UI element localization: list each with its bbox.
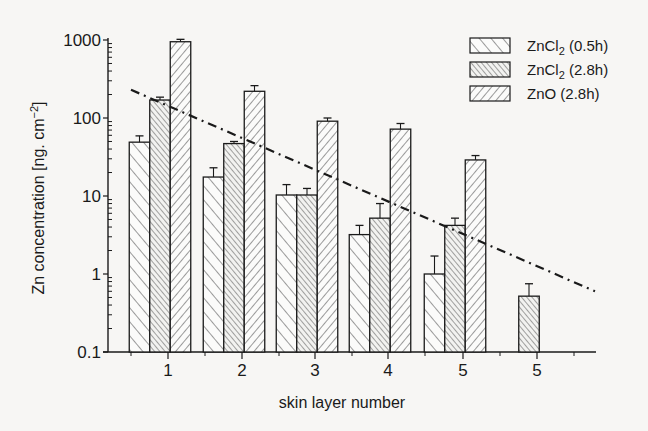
bar xyxy=(370,218,391,352)
y-axis-label: Zn concentration [ng. cm−2] xyxy=(28,101,47,294)
bar xyxy=(224,144,245,352)
bar xyxy=(445,225,466,352)
bar xyxy=(390,129,411,352)
y-tick-label: 0.1 xyxy=(77,343,101,362)
chart: 0.11101001000123455 ZnCl2 (0.5h)ZnCl2 (2… xyxy=(0,0,648,431)
legend-label: ZnCl2 (2.8h) xyxy=(527,61,608,81)
legend-label: ZnO (2.8h) xyxy=(527,85,600,102)
x-tick-label: 3 xyxy=(310,361,319,380)
bar xyxy=(150,100,171,352)
y-tick-label: 100 xyxy=(73,109,101,128)
bar xyxy=(203,177,224,352)
y-tick-label: 1000 xyxy=(63,31,101,50)
x-axis-label: skin layer number xyxy=(279,394,406,411)
bar xyxy=(129,142,150,352)
legend-swatch xyxy=(470,62,510,77)
legend-swatch xyxy=(470,86,510,101)
bar xyxy=(297,195,318,352)
bar xyxy=(424,274,445,352)
x-tick-label: 5 xyxy=(458,361,467,380)
x-tick-label: 1 xyxy=(163,361,172,380)
bar xyxy=(519,296,540,352)
legend: ZnCl2 (0.5h)ZnCl2 (2.8h)ZnO (2.8h) xyxy=(470,37,608,102)
x-tick-label: 2 xyxy=(237,361,246,380)
x-tick-label: 4 xyxy=(383,361,392,380)
legend-swatch xyxy=(470,38,510,53)
bar xyxy=(349,235,370,352)
bar xyxy=(317,121,338,352)
bar xyxy=(244,91,265,352)
bar xyxy=(465,160,486,352)
bar xyxy=(276,195,297,352)
y-tick-label: 10 xyxy=(82,187,101,206)
y-tick-label: 1 xyxy=(92,265,101,284)
x-tick-label: 5 xyxy=(532,361,541,380)
legend-label: ZnCl2 (0.5h) xyxy=(527,37,608,57)
bar xyxy=(170,42,191,352)
bar-chart-svg: 0.11101001000123455 ZnCl2 (0.5h)ZnCl2 (2… xyxy=(0,0,648,431)
